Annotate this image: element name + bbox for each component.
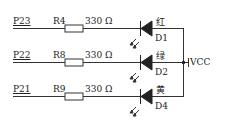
diode-d2-icon <box>141 55 153 70</box>
light-arrows-d1-icon <box>130 39 139 48</box>
resistor-label-r4: R4 <box>53 16 66 26</box>
port-label-p23: P23 <box>13 16 31 26</box>
resistor-label-r9: R9 <box>53 84 66 94</box>
port-label-p21: P21 <box>13 84 31 94</box>
diode-label-d1: D1 <box>155 33 168 43</box>
diode-label-d2: D2 <box>155 67 168 77</box>
led-color-red: 红 <box>156 17 165 27</box>
diode-d1-icon <box>141 21 153 36</box>
diode-d4-icon <box>141 89 153 104</box>
resistor-label-r8: R8 <box>53 50 66 60</box>
port-label-p22: P22 <box>13 50 31 60</box>
diode-label-d4: D4 <box>155 101 168 111</box>
light-arrows-d4-icon <box>130 107 139 116</box>
vcc-label: VCC <box>190 57 210 67</box>
resistor-value-r4: 330 Ω <box>85 16 113 26</box>
led-color-yellow: 黄 <box>156 85 165 95</box>
led-color-green: 绿 <box>156 51 165 61</box>
resistor-value-r9: 330 Ω <box>85 84 113 94</box>
light-arrows-d2-icon <box>130 73 139 82</box>
resistor-value-r8: 330 Ω <box>85 50 113 60</box>
